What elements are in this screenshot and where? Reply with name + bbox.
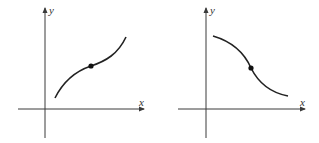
y-axis-label: y: [209, 4, 215, 16]
increasing-curve-graph: y x: [18, 4, 144, 138]
decreasing-curve-graph: y x: [178, 4, 305, 138]
inflection-point: [88, 63, 93, 68]
inflection-point: [248, 65, 253, 70]
diagram-canvas: y x y x: [0, 0, 319, 143]
x-axis-label: x: [138, 96, 144, 108]
x-axis-label: x: [299, 96, 305, 108]
y-axis-label: y: [48, 4, 54, 16]
